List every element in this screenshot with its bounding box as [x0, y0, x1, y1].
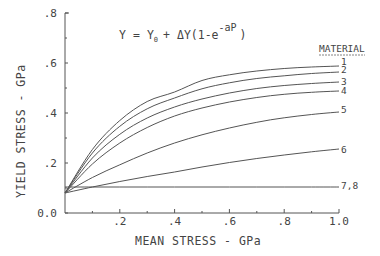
y-tick-label: .4 — [44, 107, 58, 120]
curve-label: 5 — [341, 104, 347, 115]
y-tick-label: 0.0 — [37, 207, 57, 220]
x-tick-label: .2 — [113, 215, 126, 228]
curve-labels: 1234567,8 — [341, 56, 358, 191]
curve-material-1 — [65, 66, 339, 193]
x-tick-label: .8 — [278, 215, 291, 228]
y-tick-label: .2 — [44, 157, 57, 170]
curve-material-2 — [65, 72, 339, 193]
y-ticks: 0.0.2.4.6.8 — [37, 7, 68, 220]
legend-title: MATERIAL — [319, 43, 365, 54]
x-ticks: .2.4.6.81.0 — [92, 209, 349, 228]
equation: Y=Y0+ΔY(1-e-aP) — [119, 22, 247, 44]
y-axis-label: YIELD STRESS - GPa — [14, 64, 28, 198]
x-tick-label: .6 — [223, 215, 236, 228]
axes — [65, 13, 339, 213]
yield-stress-chart: 0.0.2.4.6.8 .2.4.6.81.0 1234567,8 Y=Y0+Δ… — [0, 0, 380, 256]
y-tick-label: .8 — [44, 7, 57, 20]
x-tick-label: 1.0 — [329, 215, 349, 228]
curve-material-3 — [65, 82, 339, 193]
curve-label: 6 — [341, 144, 347, 155]
curve-label: 2 — [341, 64, 347, 75]
curve-material-4 — [65, 91, 339, 193]
curve-label: 7,8 — [341, 180, 358, 191]
x-tick-label: .4 — [168, 215, 182, 228]
x-axis-label: MEAN STRESS - GPa — [135, 234, 261, 248]
curve-label: 4 — [341, 85, 347, 96]
y-tick-label: .6 — [44, 57, 57, 70]
curves — [65, 66, 339, 193]
